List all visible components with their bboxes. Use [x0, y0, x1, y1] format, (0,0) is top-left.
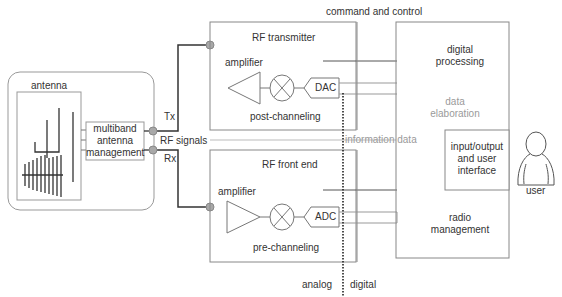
antenna-icon: [22, 108, 73, 197]
io-interface-line2: and user: [445, 153, 509, 165]
pre-channeling-label: pre-channeling: [253, 242, 319, 254]
radio-management-line1: radio: [425, 212, 495, 224]
multiband-label: multiband antenna management: [86, 123, 144, 159]
rx-label: Rx: [164, 153, 176, 165]
multiband-label-line2: antenna: [86, 135, 144, 147]
command-control-label: command and control: [326, 6, 422, 18]
digital-processing-label: digital processing: [430, 44, 490, 68]
data-elaboration-line1: data: [425, 96, 485, 108]
radio-management-line2: management: [425, 224, 495, 236]
adc-label: ADC: [315, 211, 336, 223]
io-interface-label: input/output and user interface: [445, 141, 509, 177]
analog-label: analog: [302, 279, 332, 291]
rf-front-end-title: RF front end: [262, 159, 318, 171]
rf-transmitter-title: RF transmitter: [252, 32, 315, 44]
dac-label: DAC: [315, 82, 336, 94]
data-bus: [339, 83, 397, 223]
user-label: user: [526, 185, 545, 197]
multiband-label-line3: management: [86, 147, 144, 159]
io-interface-line1: input/output: [445, 141, 509, 153]
rf-signals-label: RF signals: [160, 135, 207, 147]
user-icon: [518, 132, 554, 185]
post-channeling-label: post-channeling: [250, 111, 321, 123]
tx-label: Tx: [164, 111, 175, 123]
antenna-label: antenna: [31, 80, 67, 92]
tx-amplifier-label: amplifier: [225, 57, 263, 69]
data-elaboration-line2: elaboration: [425, 108, 485, 120]
digital-processing-line1: digital: [430, 44, 490, 56]
mixer-icon: [270, 204, 294, 230]
digital-label: digital: [350, 279, 376, 291]
mixer-icon: [270, 75, 294, 101]
information-data-label: information data: [345, 134, 417, 146]
rx-amplifier-label: amplifier: [218, 186, 256, 198]
amplifier-icon: [228, 72, 260, 104]
radio-management-label: radio management: [425, 212, 495, 236]
digital-processing-line2: processing: [430, 56, 490, 68]
amplifier-icon: [227, 201, 260, 233]
io-interface-line3: interface: [445, 165, 509, 177]
multiband-label-line1: multiband: [86, 123, 144, 135]
connector-icon: [149, 41, 214, 211]
data-elaboration-label: data elaboration: [425, 96, 485, 120]
